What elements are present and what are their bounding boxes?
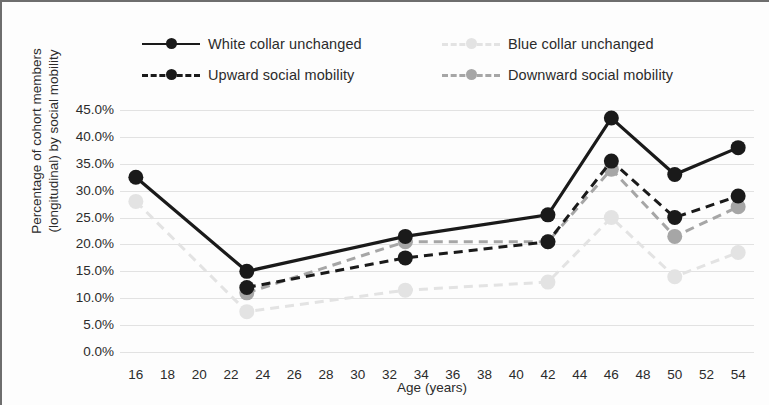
legend-key-icon	[142, 36, 200, 52]
legend-label: White collar unchanged	[208, 36, 362, 52]
series-line	[136, 201, 738, 311]
legend-entry-blue-collar-unchanged: Blue collar unchanged	[442, 36, 702, 52]
legend-key-marker	[166, 38, 177, 49]
legend-entry-upward-social-mobility: Upward social mobility	[142, 67, 442, 83]
legend-key-marker	[466, 38, 477, 49]
data-point	[398, 250, 413, 265]
data-point	[667, 269, 682, 284]
x-axis-label: Age (years)	[112, 380, 752, 395]
y-axis-tick-label: 20.0%	[54, 238, 114, 252]
legend-row: Upward social mobility Downward social m…	[142, 59, 702, 90]
data-point	[604, 111, 619, 126]
legend-key-marker	[166, 69, 177, 80]
data-point	[128, 170, 143, 185]
y-axis-tick-label: 45.0%	[54, 103, 114, 117]
y-axis-tick-label: 40.0%	[54, 130, 114, 144]
legend-entry-white-collar-unchanged: White collar unchanged	[142, 36, 442, 52]
legend-entry-downward-social-mobility: Downward social mobility	[442, 67, 702, 83]
x-axis-tick-label: 34	[406, 368, 436, 382]
data-point	[731, 140, 746, 155]
x-axis-tick-label: 28	[311, 368, 341, 382]
x-axis-tick-label: 44	[565, 368, 595, 382]
data-point	[731, 189, 746, 204]
x-axis-tick-label: 30	[343, 368, 373, 382]
data-point	[731, 245, 746, 260]
legend-key-icon	[442, 36, 500, 52]
legend-key-icon	[442, 67, 500, 83]
chart-figure: White collar unchanged Blue collar uncha…	[0, 0, 769, 405]
legend-key-marker	[466, 69, 477, 80]
legend-label: Downward social mobility	[508, 67, 673, 83]
plot-area: 0.0%5.0%10.0%15.0%20.0%25.0%30.0%35.0%40…	[120, 110, 754, 352]
x-axis-tick-label: 48	[628, 368, 658, 382]
x-axis-tick-label: 42	[533, 368, 563, 382]
chart-legend: White collar unchanged Blue collar uncha…	[142, 28, 702, 90]
data-point	[540, 234, 555, 249]
x-axis-tick-label: 52	[691, 368, 721, 382]
data-point	[398, 283, 413, 298]
y-axis-tick-label: 30.0%	[54, 184, 114, 198]
data-series-layer	[120, 110, 754, 352]
data-point	[239, 304, 254, 319]
x-axis-tick-label: 24	[248, 368, 278, 382]
x-axis-tick-label: 40	[501, 368, 531, 382]
data-point	[604, 154, 619, 169]
legend-key-icon	[142, 67, 200, 83]
data-point	[604, 210, 619, 225]
gridline	[120, 352, 754, 353]
x-axis-tick-label: 46	[596, 368, 626, 382]
data-point	[667, 229, 682, 244]
data-point	[667, 210, 682, 225]
x-axis-tick-label: 18	[153, 368, 183, 382]
data-point	[239, 264, 254, 279]
x-axis-tick-label: 50	[660, 368, 690, 382]
series-white-collar-unchanged	[128, 111, 745, 279]
y-axis-tick-label: 10.0%	[54, 291, 114, 305]
y-axis-tick-label: 35.0%	[54, 157, 114, 171]
data-point	[667, 167, 682, 182]
x-axis-tick-label: 16	[121, 368, 151, 382]
data-point	[239, 280, 254, 295]
x-axis-tick-label: 20	[184, 368, 214, 382]
data-point	[128, 194, 143, 209]
y-axis-tick-label: 0.0%	[54, 345, 114, 359]
y-axis-tick-label: 5.0%	[54, 318, 114, 332]
data-point	[540, 275, 555, 290]
legend-label: Blue collar unchanged	[508, 36, 654, 52]
x-axis-tick-label: 54	[723, 368, 753, 382]
legend-label: Upward social mobility	[208, 67, 354, 83]
x-axis-tick-label: 38	[470, 368, 500, 382]
x-axis-tick-label: 22	[216, 368, 246, 382]
x-axis-tick-label: 36	[438, 368, 468, 382]
data-point	[398, 229, 413, 244]
x-axis-tick-label: 32	[374, 368, 404, 382]
x-axis-tick-label: 26	[279, 368, 309, 382]
legend-row: White collar unchanged Blue collar uncha…	[142, 28, 702, 59]
y-axis-tick-label: 25.0%	[54, 211, 114, 225]
data-point	[540, 207, 555, 222]
y-axis-tick-label: 15.0%	[54, 265, 114, 279]
series-line	[247, 169, 738, 293]
